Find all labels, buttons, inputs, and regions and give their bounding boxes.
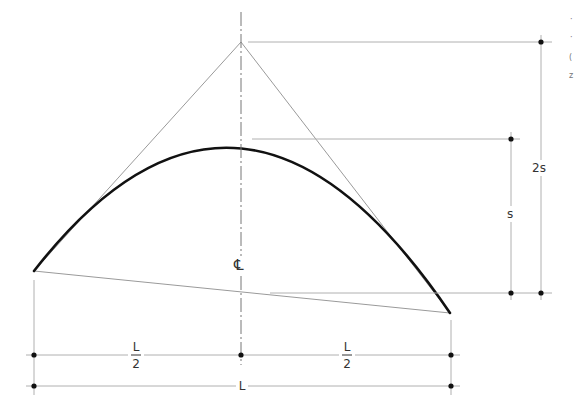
tangent-line-left (34, 42, 241, 271)
dimension-dot (238, 352, 243, 357)
tangent-line-right (241, 42, 450, 313)
half-span-left-denominator: 2 (132, 357, 140, 371)
dimension-dot (508, 136, 513, 141)
edge-text-fragment: · (570, 15, 573, 24)
edge-text-fragment: · (570, 33, 573, 42)
half-span-right-denominator: 2 (343, 357, 351, 371)
half-span-left-numerator: L (133, 340, 140, 354)
edge-text-fragment: z (569, 71, 573, 80)
dimension-dot (508, 290, 513, 295)
dimension-dot (31, 383, 36, 388)
arch-diagram: 2s s ℄ L 2 L 2 L · · ( z (0, 0, 574, 420)
edge-text-fragment: ( (569, 53, 572, 62)
span-label: L (239, 379, 246, 393)
centerline-symbol: ℄ (233, 256, 244, 274)
arch-curve (34, 148, 450, 313)
dimension-dot (31, 352, 36, 357)
dimension-dot (538, 290, 543, 295)
half-span-right-numerator: L (344, 340, 351, 354)
dimension-dot (448, 383, 453, 388)
label-2s: 2s (532, 161, 546, 175)
chord-line (34, 271, 450, 313)
dimension-dot (538, 39, 543, 44)
dimension-dot (448, 352, 453, 357)
label-s: s (507, 207, 513, 221)
